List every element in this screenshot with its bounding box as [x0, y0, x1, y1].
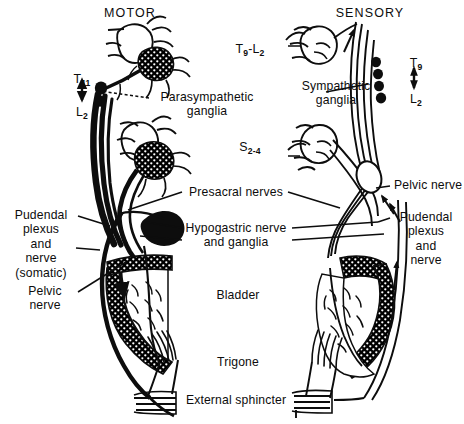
motor-heading: MOTOR: [84, 6, 176, 21]
leader-pudendal-left-2: [76, 248, 100, 250]
segment-label-t9-l2: T9-L2: [224, 42, 276, 59]
label-sympathetic-ganglia: Sympathetic ganglia: [286, 79, 386, 108]
leader-pudendal-right: [378, 218, 390, 222]
label-trigone: Trigone: [206, 355, 270, 369]
label-external-sphincter: External sphincter: [176, 393, 296, 407]
sensory-upper-cord-segment: [286, 26, 337, 63]
segment-label-motor-lower: L2: [66, 105, 98, 122]
motor-pelvic-nerve-second: [130, 175, 144, 253]
segment-label-sensory-upper: T9: [402, 56, 430, 73]
sensory-plexus-junction: [353, 158, 386, 196]
motor-ramus-communicans-upper: [104, 70, 141, 89]
label-hypogastric-nerve: Hypogastric nerve and ganglia: [180, 221, 292, 250]
sensory-lower-root-filaments: [316, 141, 331, 159]
sensory-lower-cord-segment: [288, 125, 337, 170]
parasympathetic-ganglion-upper: [138, 47, 173, 80]
motor-panel-artwork: [94, 17, 191, 416]
label-pudendal-plexus-right: Pudendal plexus and nerve: [392, 210, 460, 268]
bladder-innervation-diagram: MOTOR SENSORY T9-L2 S2-4 T11 L2 T9 L2 Pa…: [0, 0, 464, 424]
label-pelvic-nerve-left: Pelvic nerve: [14, 284, 76, 313]
external-sphincter-striations-right: [294, 396, 330, 408]
parasympathetic-ganglion-lower: [135, 142, 174, 179]
label-pudendal-plexus-somatic: Pudendal plexus and nerve (somatic): [6, 208, 76, 280]
sympathetic-ganglion-node-1: [371, 57, 381, 67]
leader-presacral-right: [288, 192, 340, 208]
segment-label-s2-4: S2-4: [226, 140, 274, 157]
leader-presacral-left: [128, 192, 182, 210]
sympathetic-ganglion-node-2: [373, 69, 383, 79]
urethra-right-wall: [172, 360, 178, 394]
leader-parasympathetic: [106, 92, 149, 98]
segment-label-motor-upper: T11: [66, 72, 98, 89]
leader-hypogastric-right: [292, 222, 378, 228]
urethra-right-panel-wall-b: [330, 368, 336, 398]
label-bladder: Bladder: [206, 288, 270, 302]
label-pelvic-nerve-right: Pelvic nerve: [394, 178, 464, 192]
label-parasympathetic-ganglia: Parasympathetic ganglia: [150, 90, 264, 119]
segment-label-sensory-lower: L2: [402, 92, 430, 109]
sensory-upper-root-filaments: [314, 43, 330, 59]
label-presacral-nerves: Presacral nerves: [186, 185, 286, 199]
sensory-sphincter-afferent-terminal: [334, 398, 364, 400]
motor-hypogastric-plexus-mass: [141, 211, 185, 246]
sensory-heading: SENSORY: [322, 6, 418, 21]
